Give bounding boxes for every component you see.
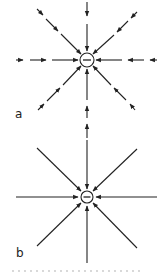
panel-a: [16, 2, 157, 138]
illegible-caption-strip: [10, 270, 140, 272]
panel-label-a: a: [15, 108, 22, 120]
negative-charge-a: [80, 53, 94, 67]
field-diagram: a b: [0, 0, 168, 274]
panel-label-b: b: [16, 247, 24, 259]
field-lines-canvas: [0, 0, 168, 274]
negative-charge-b: [81, 191, 93, 203]
